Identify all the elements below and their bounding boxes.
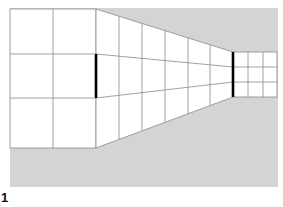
near-wall-grid <box>10 9 96 148</box>
far-wall-grid <box>233 52 277 97</box>
figure-number-label: 1 <box>1 191 8 205</box>
perspective-illusion-figure <box>0 0 283 207</box>
